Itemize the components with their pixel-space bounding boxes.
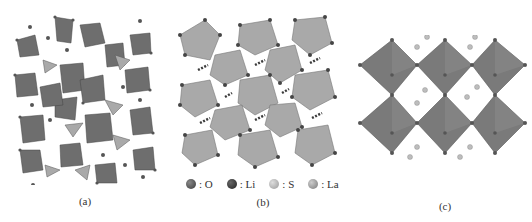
caption-b: (b) — [248, 196, 278, 208]
crystal-structure-a — [5, 5, 165, 185]
sulfur-sphere-icon — [269, 179, 279, 189]
perovskite-octahedra-c — [355, 35, 530, 165]
caption-a: (a) — [70, 195, 100, 207]
lanthanum-sphere-icon — [308, 179, 318, 189]
legend-item-la: : La — [308, 178, 338, 190]
polyhedra-network-b — [170, 5, 345, 175]
legend-item-o: : O — [186, 178, 213, 190]
caption-c: (c) — [430, 200, 460, 212]
oxygen-sphere-icon — [186, 179, 196, 189]
crystal-structure-c — [355, 35, 530, 165]
polyhedra-network-a — [5, 5, 165, 185]
legend-item-s: : S — [269, 178, 294, 190]
legend: : O : Li : S : La — [186, 178, 347, 190]
legend-item-li: : Li — [227, 178, 256, 190]
crystal-structure-b — [170, 5, 345, 175]
lithium-sphere-icon — [227, 179, 237, 189]
